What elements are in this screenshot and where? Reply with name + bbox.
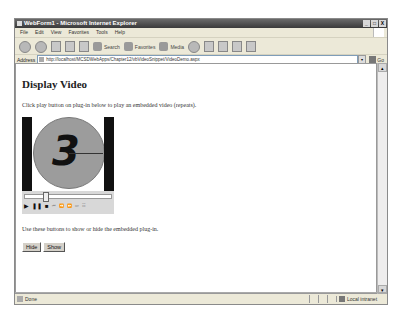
fast-forward-button[interactable]: ⏩ (67, 203, 72, 208)
rewind-button[interactable]: ⏪ (59, 203, 64, 208)
menu-bar: File Edit View Favorites Tools Help (15, 28, 387, 37)
media-icon (159, 42, 168, 51)
discuss-button[interactable] (246, 41, 256, 52)
video-display[interactable]: 3 (22, 117, 114, 191)
forward-button[interactable] (35, 41, 47, 53)
menu-help[interactable]: Help (115, 28, 125, 37)
intro-text: Click play button on plug-in below to pl… (22, 102, 196, 108)
stop-button[interactable]: ■ (45, 203, 49, 209)
page-content: Display Video Click play button on plug-… (15, 63, 377, 294)
show-button[interactable]: Show (43, 242, 65, 252)
title-bar: WebForm1 - Microsoft Internet Explorer _… (15, 19, 387, 28)
edit-button[interactable] (232, 41, 242, 52)
ie-icon (17, 21, 22, 26)
history-button[interactable] (188, 41, 200, 53)
previous-button[interactable]: ⏮ (52, 203, 56, 208)
button-row: Hide Show (22, 242, 65, 252)
play-button[interactable]: ▶ (24, 202, 29, 209)
media-button[interactable]: Media (159, 42, 184, 51)
maximize-button[interactable]: □ (371, 20, 378, 27)
media-player[interactable]: 3 ▶ ❚❚ ■ ⏮ ⏪ ⏩ ⏭ ☷ (22, 117, 114, 214)
menu-tools[interactable]: Tools (96, 28, 108, 37)
go-arrow-icon (369, 56, 376, 63)
hide-button[interactable]: Hide (22, 242, 41, 252)
search-icon (93, 42, 102, 51)
status-text: Done (15, 296, 309, 302)
page-icon (39, 57, 44, 62)
address-label: Address (15, 57, 37, 63)
favorites-button[interactable]: Favorites (124, 42, 156, 51)
status-cell (309, 295, 318, 303)
stop-button[interactable] (51, 41, 61, 52)
menu-button[interactable]: ☷ (82, 203, 86, 208)
print-button[interactable] (218, 41, 228, 52)
instructions-text: Use these buttons to show or hide the em… (22, 226, 158, 232)
letterbox-left (22, 117, 32, 191)
refresh-button[interactable] (65, 41, 75, 52)
status-cell (318, 295, 327, 303)
countdown-hand (69, 153, 103, 154)
search-button[interactable]: Search (93, 42, 120, 51)
seek-thumb[interactable] (43, 192, 49, 202)
next-button[interactable]: ⏭ (75, 203, 79, 208)
countdown-number: 3 (52, 128, 80, 174)
menu-file[interactable]: File (20, 28, 28, 37)
scroll-up-button[interactable]: ▴ (378, 63, 387, 72)
pause-button[interactable]: ❚❚ (32, 202, 42, 209)
page-title: Display Video (22, 78, 87, 90)
close-button[interactable]: X (379, 20, 386, 27)
mail-button[interactable] (204, 41, 214, 52)
countdown-leader: 3 (33, 117, 105, 189)
menu-view[interactable]: View (51, 28, 62, 37)
windows-logo-icon (373, 28, 384, 37)
menu-favorites[interactable]: Favorites (68, 28, 89, 37)
player-controls: ▶ ❚❚ ■ ⏮ ⏪ ⏩ ⏭ ☷ (24, 202, 86, 209)
window-title: WebForm1 - Microsoft Internet Explorer (24, 20, 137, 26)
browser-window: WebForm1 - Microsoft Internet Explorer _… (14, 18, 388, 305)
go-button[interactable]: Go (366, 56, 387, 63)
seek-bar[interactable] (24, 194, 112, 199)
status-bar: Done Local intranet (15, 292, 387, 304)
toolbar: Search Favorites Media (15, 37, 387, 55)
home-button[interactable] (79, 41, 89, 52)
page-done-icon (17, 296, 23, 302)
letterbox-right (104, 117, 114, 191)
star-icon (124, 42, 133, 51)
back-button[interactable] (19, 41, 31, 53)
minimize-button[interactable]: _ (363, 20, 370, 27)
status-cell (327, 295, 336, 303)
intranet-icon (339, 296, 345, 302)
vertical-scrollbar[interactable]: ▴ ▾ (377, 63, 387, 294)
security-zone: Local intranet (336, 296, 387, 302)
menu-edit[interactable]: Edit (35, 28, 44, 37)
